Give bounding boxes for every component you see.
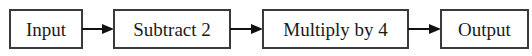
edge-subtract-to-multiply bbox=[230, 24, 263, 34]
arrow-head-icon bbox=[429, 24, 441, 34]
node-output: Output bbox=[441, 10, 528, 48]
edge-multiply-to-output bbox=[408, 24, 441, 34]
arrow-head-icon bbox=[251, 24, 263, 34]
node-multiply-label: Multiply by 4 bbox=[283, 19, 388, 40]
node-multiply: Multiply by 4 bbox=[263, 10, 408, 48]
node-input: Input bbox=[10, 10, 82, 48]
node-input-label: Input bbox=[26, 19, 67, 40]
node-subtract: Subtract 2 bbox=[114, 10, 230, 48]
flowchart: Input Subtract 2 Multiply by 4 Output bbox=[0, 0, 532, 56]
edge-input-to-subtract bbox=[82, 24, 114, 34]
node-output-label: Output bbox=[458, 19, 512, 40]
arrow-head-icon bbox=[102, 24, 114, 34]
node-subtract-label: Subtract 2 bbox=[133, 19, 211, 40]
